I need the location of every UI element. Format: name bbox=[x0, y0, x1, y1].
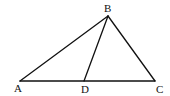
segments bbox=[20, 16, 155, 81]
label-c: C bbox=[156, 83, 163, 95]
segment-bc bbox=[108, 16, 155, 81]
segment-bd bbox=[84, 16, 108, 81]
label-a: A bbox=[14, 82, 22, 94]
segment-ab bbox=[20, 16, 108, 81]
triangle-diagram: A B C D bbox=[0, 0, 170, 96]
label-b: B bbox=[104, 2, 111, 14]
label-d: D bbox=[81, 83, 89, 95]
